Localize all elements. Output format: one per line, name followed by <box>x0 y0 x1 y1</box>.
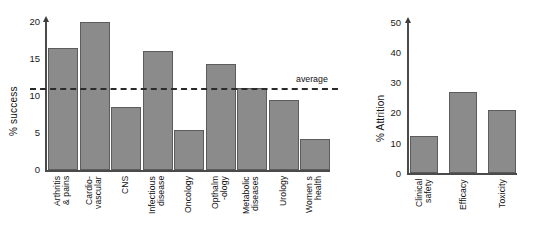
x-category-label-clinical-safety: Clinical safety <box>415 179 434 227</box>
bar-efficacy[interactable] <box>449 92 477 173</box>
y-tick-label-attr-50: 50 <box>383 18 401 28</box>
x-category-label-womens-health: Women s health <box>305 176 324 228</box>
chart-panel-attrition: % Attrition 50 40 30 20 10 0 Clinical sa… <box>370 0 550 231</box>
bar-clinical-safety[interactable] <box>410 136 438 173</box>
bar-infectious-disease[interactable] <box>143 51 173 170</box>
bar-toxicity[interactable] <box>488 110 516 173</box>
average-line-label: average <box>296 74 328 84</box>
x-category-label-infectious-disease: Infectious disease <box>148 176 167 228</box>
bar-cardiovascular[interactable] <box>80 22 110 170</box>
y-axis-success <box>45 21 47 171</box>
bar-cns[interactable] <box>111 107 141 170</box>
y-tick-label-20: 20 <box>20 17 40 27</box>
x-axis-attrition <box>407 173 517 175</box>
bar-womens-health[interactable] <box>300 139 330 170</box>
y-tick-label-5: 5 <box>20 128 40 138</box>
chart-panel-success: % success 20 15 10 5 0 average Arthritis… <box>0 0 360 231</box>
x-axis-success <box>45 170 330 172</box>
y-tick-label-0: 0 <box>20 165 40 175</box>
x-category-label-oncology: Oncology <box>184 176 193 228</box>
y-tick-label-15: 15 <box>20 54 40 64</box>
y-axis-label-success: % success <box>8 66 19 136</box>
y-tick-label-attr-20: 20 <box>383 108 401 118</box>
x-category-label-toxicity: Toxicity <box>498 179 507 227</box>
y-tick-label-attr-30: 30 <box>383 78 401 88</box>
y-tick-label-attr-0: 0 <box>383 169 401 179</box>
y-tick-label-attr-10: 10 <box>383 139 401 149</box>
y-axis-attrition <box>407 22 409 174</box>
x-category-label-cardiovascular: Cardio- vascular <box>85 176 104 228</box>
bar-metabolic-diseases[interactable] <box>237 88 267 170</box>
figure-two-bar-charts: % success 20 15 10 5 0 average Arthritis… <box>0 0 550 231</box>
x-category-label-opthalmology: Opthalm -ology <box>211 176 230 228</box>
bar-opthalmology[interactable] <box>206 64 236 170</box>
y-tick-label-attr-40: 40 <box>383 48 401 58</box>
x-category-label-cns: CNS <box>121 176 130 228</box>
x-category-label-urology: Urology <box>279 176 288 228</box>
x-category-label-efficacy: Efficacy <box>459 179 468 227</box>
bar-oncology[interactable] <box>174 130 204 170</box>
bar-urology[interactable] <box>269 100 299 170</box>
y-tick-label-10: 10 <box>20 91 40 101</box>
x-category-label-arthritis-pains: Arthritis & pains <box>53 176 72 228</box>
bar-arthritis-pains[interactable] <box>48 48 78 170</box>
average-line <box>30 88 338 90</box>
x-category-label-metabolic-diseases: Metabolic diseases <box>242 176 261 228</box>
